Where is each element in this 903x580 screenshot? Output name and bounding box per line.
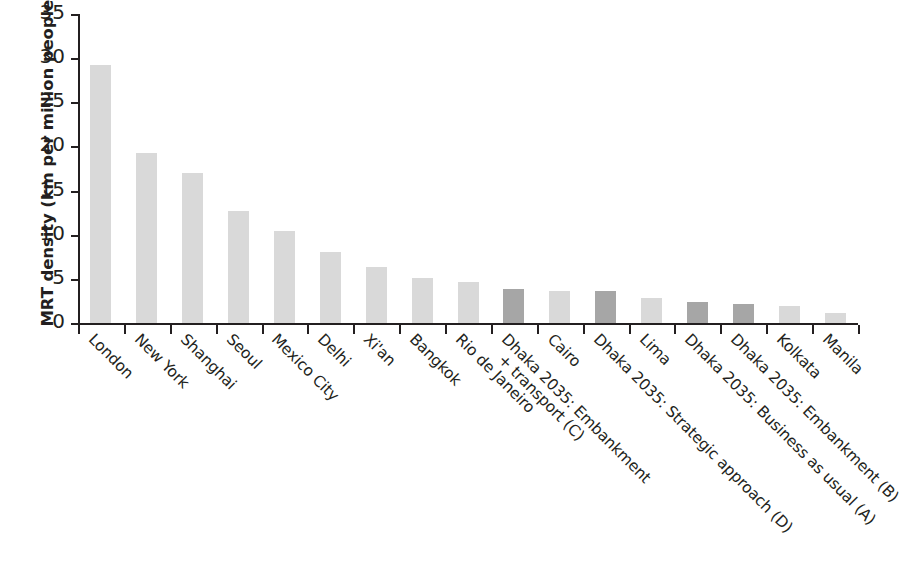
x-axis-label: Manila — [819, 331, 866, 378]
x-axis-label-line: Xi'an — [360, 330, 399, 369]
bar — [458, 282, 479, 323]
bar — [595, 291, 616, 323]
bar — [228, 211, 249, 323]
bar — [779, 306, 800, 323]
plot-area: 05101520253035 — [78, 14, 858, 323]
bar — [412, 278, 433, 323]
x-axis-label-line: London — [85, 330, 137, 382]
x-axis-label: Lima — [635, 331, 673, 369]
bar-series — [78, 14, 858, 323]
y-axis-tick-label: 5 — [25, 267, 65, 287]
x-axis-label-line: Seoul — [223, 330, 265, 372]
bar — [641, 298, 662, 323]
x-axis-label-line: Cairo — [544, 330, 584, 370]
bar — [136, 153, 157, 323]
x-axis-label-line: Delhi — [314, 330, 354, 370]
bar — [733, 304, 754, 323]
x-axis-label: London — [85, 331, 136, 382]
x-axis-label: Seoul — [223, 331, 265, 373]
y-axis-tick-label: 10 — [25, 223, 65, 243]
y-axis-tick-label: 30 — [25, 46, 65, 66]
y-axis-tick-label: 35 — [25, 2, 65, 22]
bar — [182, 173, 203, 323]
x-axis-category-labels: LondonNew YorkShanghaiSeoulMexico CityDe… — [78, 325, 865, 575]
y-axis-tick-label: 20 — [25, 134, 65, 154]
bar — [687, 302, 708, 323]
x-axis-label-line: Dhaka 2035: Embankment (B) — [727, 330, 902, 505]
x-axis-label: Cairo — [544, 331, 584, 371]
y-axis-tick-label: 0 — [25, 311, 65, 331]
x-axis-label-line: Manila — [819, 330, 867, 378]
y-axis-tick-label: 25 — [25, 90, 65, 110]
bar — [274, 231, 295, 323]
y-axis-tick-label: 15 — [25, 179, 65, 199]
bar — [825, 313, 846, 323]
x-axis-label: Xi'an — [360, 331, 399, 370]
bar — [320, 252, 341, 323]
x-axis-label-line: Lima — [635, 330, 674, 369]
bar — [549, 291, 570, 323]
bar — [503, 289, 524, 323]
x-axis-label: Delhi — [314, 331, 354, 371]
bar — [90, 65, 111, 323]
bar — [366, 267, 387, 323]
x-axis-label: Dhaka 2035: Embankment (B) — [727, 331, 902, 506]
